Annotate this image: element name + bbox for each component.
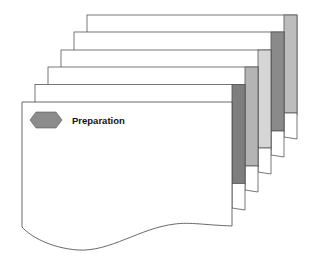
hexagon-badge-icon — [30, 112, 62, 128]
page-tab-4 — [271, 32, 284, 131]
section-title: Preparation — [72, 115, 125, 126]
page-tab-3 — [258, 50, 271, 148]
stacked-pages-diagram: Preparation — [0, 0, 316, 264]
front-page: Preparation — [22, 102, 232, 250]
page-tab-1 — [232, 85, 245, 184]
page-tab-5 — [284, 15, 297, 113]
page-tab-2 — [245, 67, 258, 166]
